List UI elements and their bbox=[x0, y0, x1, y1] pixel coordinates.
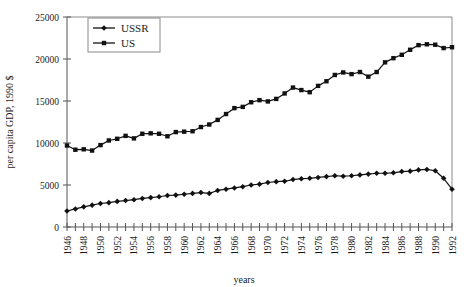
data-point-us bbox=[450, 45, 454, 49]
data-point-ussr bbox=[382, 170, 388, 176]
data-point-ussr bbox=[407, 168, 413, 174]
data-point-ussr bbox=[206, 191, 212, 197]
y-tick-label: 0 bbox=[54, 223, 59, 233]
data-point-us bbox=[433, 43, 437, 47]
data-point-us bbox=[308, 90, 312, 94]
data-point-us bbox=[174, 130, 178, 134]
series-us bbox=[65, 42, 454, 153]
data-point-us bbox=[416, 43, 420, 47]
data-point-us bbox=[391, 56, 395, 60]
data-point-ussr bbox=[265, 180, 271, 186]
data-point-us bbox=[383, 60, 387, 64]
data-point-us bbox=[441, 46, 445, 50]
series-line-ussr bbox=[67, 169, 452, 211]
data-point-ussr bbox=[273, 179, 279, 185]
data-point-us bbox=[374, 70, 378, 74]
data-point-us bbox=[65, 143, 69, 147]
data-point-us bbox=[215, 118, 219, 122]
data-point-us bbox=[408, 48, 412, 52]
y-tick-label: 20000 bbox=[35, 55, 59, 65]
data-point-ussr bbox=[282, 178, 288, 184]
data-point-us bbox=[249, 100, 253, 104]
data-point-us bbox=[299, 88, 303, 92]
data-point-us bbox=[282, 91, 286, 95]
data-point-ussr bbox=[399, 169, 405, 175]
x-tick-label: 1966 bbox=[230, 236, 240, 255]
x-tick-label: 1954 bbox=[129, 236, 139, 255]
data-point-us bbox=[148, 131, 152, 135]
chart-container: 0500010000150002000025000 19461948195019… bbox=[0, 0, 468, 287]
data-point-ussr bbox=[223, 186, 229, 192]
x-tick-label: 1978 bbox=[330, 236, 340, 255]
data-point-ussr bbox=[232, 185, 238, 191]
data-point-us bbox=[98, 143, 102, 147]
data-point-us bbox=[182, 129, 186, 133]
data-point-ussr bbox=[290, 177, 296, 183]
data-point-us bbox=[190, 129, 194, 133]
data-point-us bbox=[157, 132, 161, 136]
x-tick-label: 1990 bbox=[431, 236, 441, 255]
data-series-group bbox=[64, 42, 455, 214]
data-point-ussr bbox=[340, 173, 346, 179]
data-point-us bbox=[73, 148, 77, 152]
data-point-ussr bbox=[73, 206, 79, 212]
x-tick-label: 1992 bbox=[448, 236, 458, 255]
data-point-ussr bbox=[257, 181, 263, 187]
x-tick-label: 1982 bbox=[364, 236, 374, 255]
data-point-ussr bbox=[374, 170, 380, 176]
data-point-us bbox=[107, 138, 111, 142]
data-point-ussr bbox=[148, 195, 154, 201]
x-axis-title: years bbox=[233, 274, 254, 285]
data-point-ussr bbox=[424, 167, 430, 173]
x-tick-label: 1984 bbox=[381, 236, 391, 255]
legend-marker-us bbox=[102, 41, 106, 45]
data-point-ussr bbox=[357, 172, 363, 178]
data-point-us bbox=[90, 148, 94, 152]
data-point-ussr bbox=[248, 182, 254, 188]
y-tick-label: 25000 bbox=[35, 13, 59, 23]
x-tick-label: 1956 bbox=[146, 236, 156, 255]
chart-legend: USSRUS bbox=[88, 18, 160, 52]
data-point-us bbox=[400, 53, 404, 57]
x-tick-label: 1946 bbox=[63, 236, 73, 255]
data-point-ussr bbox=[391, 170, 397, 176]
data-point-us bbox=[341, 70, 345, 74]
data-point-ussr bbox=[140, 196, 146, 202]
data-point-us bbox=[366, 74, 370, 78]
data-point-us bbox=[115, 137, 119, 141]
x-axis-tick-labels: 1946194819501952195419561958196019621964… bbox=[63, 236, 458, 255]
x-tick-label: 1960 bbox=[180, 236, 190, 255]
data-point-ussr bbox=[89, 202, 95, 208]
data-point-us bbox=[425, 42, 429, 46]
data-point-ussr bbox=[64, 208, 70, 214]
y-tick-label: 15000 bbox=[35, 97, 59, 107]
data-point-ussr bbox=[181, 191, 187, 197]
x-tick-label: 1972 bbox=[280, 236, 290, 255]
data-point-us bbox=[82, 147, 86, 151]
x-tick-label: 1948 bbox=[79, 236, 89, 255]
data-point-us bbox=[123, 134, 127, 138]
data-point-us bbox=[207, 122, 211, 126]
data-point-ussr bbox=[332, 173, 338, 179]
data-point-us bbox=[358, 70, 362, 74]
data-point-ussr bbox=[315, 175, 321, 181]
data-point-us bbox=[333, 73, 337, 77]
legend-label-us: US bbox=[121, 37, 135, 49]
x-tick-label: 1964 bbox=[213, 236, 223, 255]
x-tick-label: 1952 bbox=[113, 236, 123, 255]
y-tick-label: 5000 bbox=[40, 181, 59, 191]
y-axis-title: per capita GDP, 1990 $ bbox=[4, 75, 15, 168]
data-point-ussr bbox=[81, 204, 87, 210]
x-tick-label: 1968 bbox=[247, 236, 257, 255]
series-ussr bbox=[64, 167, 455, 214]
data-point-ussr bbox=[240, 184, 246, 190]
data-point-ussr bbox=[106, 200, 112, 206]
data-point-ussr bbox=[349, 173, 355, 179]
data-point-ussr bbox=[307, 175, 313, 181]
data-point-ussr bbox=[366, 171, 372, 177]
x-tick-label: 1950 bbox=[96, 236, 106, 255]
gdp-line-chart: 0500010000150002000025000 19461948195019… bbox=[0, 0, 468, 287]
data-point-ussr bbox=[173, 192, 179, 198]
data-point-us bbox=[291, 85, 295, 89]
data-point-us bbox=[241, 105, 245, 109]
